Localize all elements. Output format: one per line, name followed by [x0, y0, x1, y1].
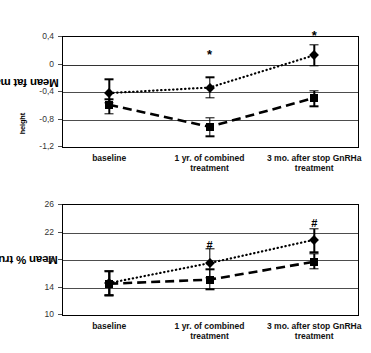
data-point-marker-square: [105, 101, 113, 109]
error-bar-cap: [205, 289, 214, 290]
error-bar-cap: [310, 105, 319, 106]
error-bar-cap: [105, 113, 114, 114]
error-bar-cap: [105, 79, 114, 80]
significance-marker: *: [312, 29, 317, 42]
error-bar-cap: [105, 295, 114, 296]
error-bar-cap: [310, 268, 319, 269]
error-bar-cap: [310, 44, 319, 45]
error-bar-cap: [205, 77, 214, 78]
error-bar-cap: [205, 117, 214, 118]
error-bar-cap: [205, 97, 214, 98]
error-bar-cap: [205, 136, 214, 137]
data-point-marker-square: [310, 94, 318, 102]
error-bar-cap: [205, 269, 214, 270]
chart-panel-fat-mass-sds: Mean fat mass SDSheight 0,40-0,4-0,8-1,2…: [0, 0, 371, 182]
error-bar-cap: [310, 253, 319, 254]
error-bar-cap: [310, 90, 319, 91]
significance-marker: #: [311, 217, 317, 228]
error-bar-cap: [310, 228, 319, 229]
significance-marker: #: [206, 240, 212, 251]
error-bar-cap: [310, 65, 319, 66]
error-bar-cap: [105, 271, 114, 272]
error-bar-cap: [105, 99, 114, 100]
data-point-marker-square: [206, 276, 214, 284]
significance-marker: *: [207, 47, 212, 60]
data-point-marker-square: [206, 123, 214, 131]
figure-container: Mean fat mass SDSheight 0,40-0,4-0,8-1,2…: [0, 0, 371, 353]
data-point-marker-square: [310, 258, 318, 266]
data-point-marker-square: [105, 280, 113, 288]
chart-panel-trunk-fat-percent: Mean % trunk fat 2622181410baseline1 yr.…: [0, 182, 371, 353]
